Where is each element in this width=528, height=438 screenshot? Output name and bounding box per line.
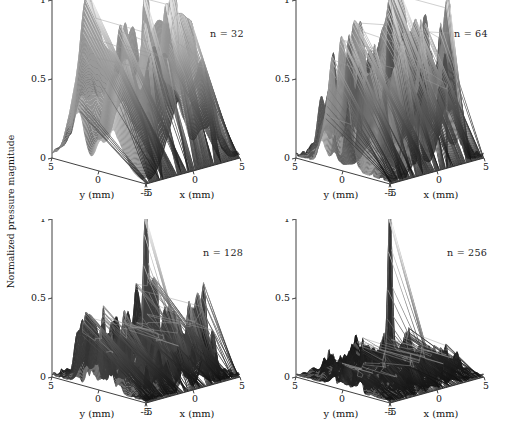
x-axis-label: x (mm) xyxy=(424,189,459,200)
figure-root: Normalized pressure magnitude 00.5150-5-… xyxy=(0,0,528,438)
z-tick-label: 1 xyxy=(40,0,46,5)
x-tick-label: 0 xyxy=(436,393,442,404)
z-tick-label: 0.5 xyxy=(31,73,46,84)
y-tick-label: 0 xyxy=(95,174,101,185)
x-tick-label: -5 xyxy=(143,406,152,417)
z-axis-ticks: 00.51 xyxy=(31,219,52,382)
surface-plot-n32: 00.5150-5-505y (mm)x (mm) xyxy=(20,0,284,219)
x-tick-label: -5 xyxy=(143,187,152,198)
surface-plot-n128: 00.5150-5-505y (mm)x (mm) xyxy=(20,219,284,438)
y-axis-label: y (mm) xyxy=(323,189,359,200)
z-tick-label: 0 xyxy=(40,152,46,163)
z-axis-ticks: 00.51 xyxy=(275,219,296,382)
z-tick-label: 0.5 xyxy=(31,292,46,303)
x-tick-label: 0 xyxy=(436,174,442,185)
x-axis-label: x (mm) xyxy=(180,189,215,200)
panel-annotation-n32: n = 32 xyxy=(210,28,244,39)
x-tick-label: 5 xyxy=(239,380,245,391)
y-axis-label: y (mm) xyxy=(323,408,359,419)
panel-annotation-n256: n = 256 xyxy=(447,247,487,258)
y-tick-label: 5 xyxy=(48,380,54,391)
y-tick-label: 5 xyxy=(292,380,298,391)
shared-y-axis-label: Normalized pressure magnitude xyxy=(2,96,20,326)
z-axis-ticks: 00.51 xyxy=(31,0,52,163)
z-tick-label: 1 xyxy=(40,219,46,224)
z-tick-label: 0.5 xyxy=(275,292,290,303)
y-tick-label: 0 xyxy=(339,393,345,404)
x-axis-label: x (mm) xyxy=(424,408,459,419)
y-tick-label: 5 xyxy=(292,161,298,172)
y-tick-label: 0 xyxy=(339,174,345,185)
x-tick-label: 5 xyxy=(483,380,489,391)
panel-n64: 00.5150-5-505y (mm)x (mm) n = 64 xyxy=(264,0,528,219)
z-tick-label: 1 xyxy=(284,219,290,224)
surface-plot-n256: 00.5150-5-505y (mm)x (mm) xyxy=(264,219,528,438)
z-tick-label: 0 xyxy=(284,371,290,382)
x-tick-label: 5 xyxy=(239,161,245,172)
x-tick-label: 5 xyxy=(483,161,489,172)
y-tick-label: 5 xyxy=(48,161,54,172)
panel-n128: 00.5150-5-505y (mm)x (mm) n = 128 xyxy=(20,219,284,438)
x-tick-label: -5 xyxy=(387,187,396,198)
z-tick-label: 0.5 xyxy=(275,73,290,84)
z-tick-label: 0 xyxy=(40,371,46,382)
panel-annotation-n64: n = 64 xyxy=(454,28,488,39)
y-axis-label: y (mm) xyxy=(79,408,115,419)
z-tick-label: 0 xyxy=(284,152,290,163)
x-axis-label: x (mm) xyxy=(180,408,215,419)
panel-annotation-n128: n = 128 xyxy=(203,247,243,258)
surface-plot-n64: 00.5150-5-505y (mm)x (mm) xyxy=(264,0,528,219)
x-tick-label: 0 xyxy=(192,393,198,404)
y-axis-label: y (mm) xyxy=(79,189,115,200)
x-tick-label: 0 xyxy=(192,174,198,185)
panel-n256: 00.5150-5-505y (mm)x (mm) n = 256 xyxy=(264,219,528,438)
x-tick-label: -5 xyxy=(387,406,396,417)
y-tick-label: 0 xyxy=(95,393,101,404)
panel-n32: 00.5150-5-505y (mm)x (mm) n = 32 xyxy=(20,0,284,219)
shared-y-axis-label-text: Normalized pressure magnitude xyxy=(6,134,17,288)
z-axis-ticks: 00.51 xyxy=(275,0,296,163)
z-tick-label: 1 xyxy=(284,0,290,5)
